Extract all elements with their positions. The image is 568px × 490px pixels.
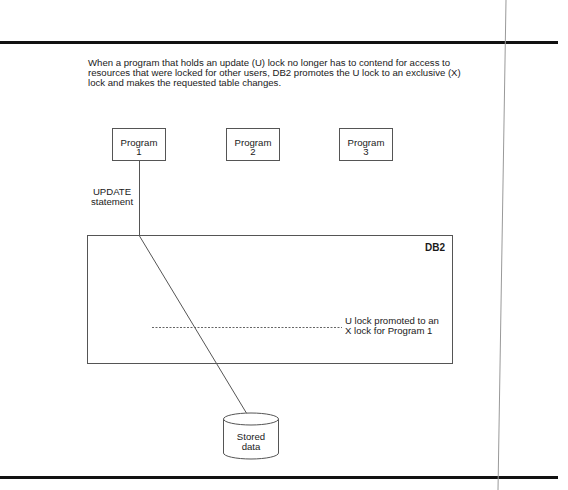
program-3-box: Program 3: [339, 128, 393, 161]
db2-label: DB2: [425, 243, 445, 253]
stored-data-line2: data: [223, 442, 279, 452]
program-2-box: Program 2: [226, 128, 280, 161]
promotion-note-line2: X lock for Program 1: [345, 326, 439, 336]
db2-box: [88, 236, 453, 364]
update-statement-label: UPDATE statement: [88, 187, 136, 207]
diagram-lines: [0, 0, 568, 490]
update-label-line2: statement: [88, 197, 136, 207]
program-3-number: 3: [340, 147, 392, 156]
program-1-number: 1: [113, 147, 165, 156]
program-1-box: Program 1: [112, 128, 166, 161]
stored-data-label: Stored data: [223, 432, 279, 452]
data-access-line: [140, 236, 248, 414]
program-2-number: 2: [227, 147, 279, 156]
promotion-note: U lock promoted to an X lock for Program…: [345, 316, 439, 336]
